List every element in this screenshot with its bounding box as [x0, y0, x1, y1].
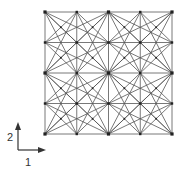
lattice-crossing-node [123, 57, 125, 59]
lattice-node [76, 72, 78, 74]
lattice-node [44, 102, 46, 104]
lattice-crossing-node [155, 26, 157, 28]
lattice-node [171, 41, 173, 43]
lattice-node [139, 41, 141, 43]
lattice-node [171, 102, 173, 104]
lattice-crossing-node [123, 26, 125, 28]
axis-2-arrow-icon [15, 122, 21, 130]
lattice-node [170, 132, 173, 135]
lattice-diagram [0, 0, 180, 172]
lattice-node [76, 133, 78, 135]
lattice-node [107, 132, 110, 135]
lattice-node [139, 11, 141, 13]
lattice-crossing-node [123, 118, 125, 120]
lattice-node [76, 102, 78, 104]
lattice-node [170, 10, 173, 13]
lattice-crossing-node [92, 26, 94, 28]
lattice-node [43, 10, 46, 13]
lattice-node [76, 11, 78, 13]
lattice-crossing-node [155, 118, 157, 120]
lattice-node [44, 41, 46, 43]
lattice-node [139, 133, 141, 135]
lattice-crossing-node [155, 87, 157, 89]
lattice-crossing-node [60, 118, 62, 120]
lattice-node [170, 71, 173, 74]
lattice-node [107, 41, 109, 43]
lattice-crossing-node [92, 87, 94, 89]
lattice-crossing-node [92, 118, 94, 120]
lattice-node [139, 72, 141, 74]
lattice-crossing-node [60, 26, 62, 28]
lattice-node [107, 71, 110, 74]
lattice-node [107, 10, 110, 13]
lattice-crossing-node [60, 57, 62, 59]
lattice-node [139, 102, 141, 104]
lattice-node [107, 102, 109, 104]
lattice-crossing-node [123, 87, 125, 89]
axis-indicator [15, 122, 46, 153]
lattice-node [43, 132, 46, 135]
lattice-crossing-node [92, 57, 94, 59]
axis-1-label: 1 [25, 156, 31, 168]
lattice-crossing-node [60, 87, 62, 89]
axis-2-label: 2 [7, 131, 13, 143]
lattice-crossing-node [155, 57, 157, 59]
lattice-node [43, 71, 46, 74]
lattice-node [76, 41, 78, 43]
axis-1-arrow-icon [38, 147, 46, 153]
